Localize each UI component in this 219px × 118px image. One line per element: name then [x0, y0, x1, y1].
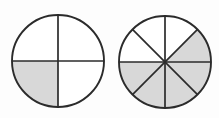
left-circle [12, 15, 104, 107]
right-circle [119, 16, 211, 108]
fraction-circles-canvas [0, 0, 219, 118]
fraction-circles-figure [0, 0, 219, 118]
circles-group [12, 15, 211, 108]
